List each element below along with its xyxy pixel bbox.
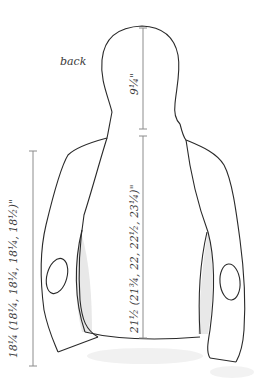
left-elbow-patch bbox=[43, 256, 72, 296]
right-shoulder-outline bbox=[180, 124, 245, 362]
right-cuff bbox=[210, 358, 236, 362]
sleeve-length-label: 18¼ (18¼, 18¼, 18¼, 18½)" bbox=[7, 199, 19, 358]
body-length-label: 21½ (21¾, 22, 22½, 23¼)" bbox=[128, 184, 140, 333]
right-elbow-patch bbox=[218, 263, 241, 301]
hood-outline bbox=[102, 26, 180, 124]
hood-height-label: 9¼" bbox=[128, 73, 140, 95]
hood-measure-line bbox=[139, 28, 147, 129]
left-shoulder-outline bbox=[41, 112, 112, 352]
view-label: back bbox=[60, 55, 86, 68]
left-cuff bbox=[58, 337, 98, 352]
body-measure-line bbox=[139, 136, 147, 338]
sleeve-measure-line bbox=[29, 151, 37, 366]
shading bbox=[76, 232, 254, 378]
